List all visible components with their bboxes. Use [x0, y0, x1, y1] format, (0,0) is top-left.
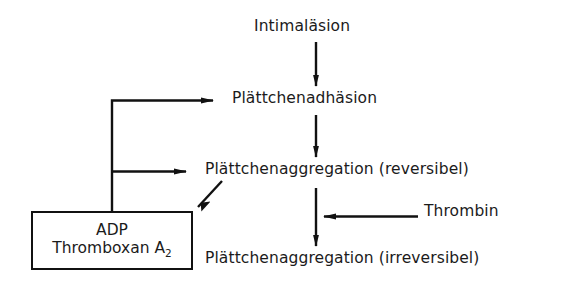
factor-box: ADP Thromboxan A2 — [31, 211, 193, 270]
factor-box-thromboxan-subscript: 2 — [165, 247, 172, 259]
edge-factor-box-feedback-to-adhaesion — [112, 101, 213, 212]
node-thrombin: Thrombin — [424, 203, 499, 221]
factor-box-line-thromboxan: Thromboxan A2 — [52, 240, 171, 259]
node-plaettchenaggregation-irreversibel: Plättchenaggregation (irreversibel) — [205, 250, 479, 268]
node-plaettchenadhaesion: Plättchenadhäsion — [232, 90, 377, 108]
factor-box-line-adp: ADP — [96, 222, 128, 239]
node-intimalaesion: Intimaläsion — [254, 18, 350, 36]
edge-aggregation-reversible-to-factor-box — [198, 181, 222, 207]
factor-box-thromboxan-text: Thromboxan A — [52, 239, 165, 257]
factor-box-content: ADP Thromboxan A2 — [33, 213, 191, 268]
flowchart-diagram: Intimaläsion Plättchenadhäsion Plättchen… — [0, 0, 581, 291]
node-plaettchenaggregation-reversibel: Plättchenaggregation (reversibel) — [205, 161, 469, 179]
